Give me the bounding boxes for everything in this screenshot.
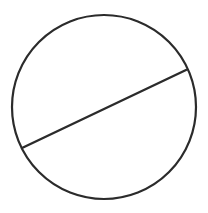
chord-line xyxy=(22,70,186,148)
figure-canvas xyxy=(0,0,208,213)
geometry-figure xyxy=(0,0,208,213)
circle-outline xyxy=(12,15,196,199)
